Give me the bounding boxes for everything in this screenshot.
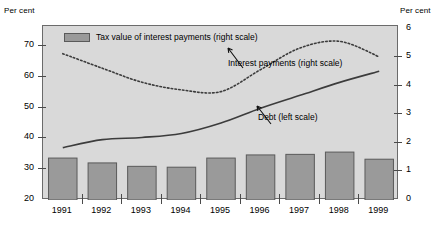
y2-tick-mark-3 xyxy=(394,113,402,114)
y2-tick-label-1: 1 xyxy=(406,164,432,174)
x-tick-label-1991: 1991 xyxy=(42,205,82,215)
bar-1991 xyxy=(49,158,77,200)
x-tick-label-1993: 1993 xyxy=(121,205,161,215)
right-axis-unit-label: Per cent xyxy=(400,6,431,15)
bar-1999 xyxy=(365,159,393,200)
x-tick-mark-0 xyxy=(82,194,83,204)
y-tick-label-50: 50 xyxy=(8,101,34,111)
y-tick-mark-40 xyxy=(38,137,46,138)
x-tick-label-1994: 1994 xyxy=(160,205,200,215)
x-tick-mark-6 xyxy=(319,194,320,204)
bar-1998 xyxy=(325,152,353,200)
bar-1997 xyxy=(286,154,314,200)
y-tick-label-70: 70 xyxy=(8,39,34,49)
interest-payments-annotation: Interest payments (right scale) xyxy=(228,58,342,68)
x-tick-mark-1 xyxy=(121,194,122,204)
chart-figure: Per cent Per cent 203040506070 0123456 1… xyxy=(0,0,439,230)
y-tick-label-40: 40 xyxy=(8,131,34,141)
bar-1992 xyxy=(88,163,116,200)
y2-tick-mark-4 xyxy=(394,85,402,86)
y2-tick-mark-5 xyxy=(394,56,402,57)
x-tick-label-1995: 1995 xyxy=(200,205,240,215)
x-tick-label-1999: 1999 xyxy=(358,205,398,215)
y2-tick-label-4: 4 xyxy=(406,79,432,89)
bar-1994 xyxy=(167,167,195,200)
left-axis-unit-label: Per cent xyxy=(4,6,35,15)
line-debt xyxy=(63,71,379,147)
x-tick-label-1992: 1992 xyxy=(81,205,121,215)
y2-tick-label-6: 6 xyxy=(406,22,432,32)
y-tick-mark-70 xyxy=(38,45,46,46)
legend-swatch-bar xyxy=(64,33,90,42)
y2-tick-label-5: 5 xyxy=(406,50,432,60)
debt-annotation: Debt (left scale) xyxy=(258,112,318,122)
y-tick-label-20: 20 xyxy=(8,193,34,203)
x-tick-label-1998: 1998 xyxy=(319,205,359,215)
plot-svg xyxy=(43,26,399,200)
bar-1995 xyxy=(207,158,235,200)
x-tick-mark-4 xyxy=(240,194,241,204)
y2-tick-mark-1 xyxy=(394,170,402,171)
x-tick-mark-3 xyxy=(200,194,201,204)
x-tick-mark-5 xyxy=(279,194,280,204)
x-tick-label-1996: 1996 xyxy=(240,205,280,215)
y2-tick-label-0: 0 xyxy=(406,193,432,203)
y2-tick-label-3: 3 xyxy=(406,107,432,117)
y2-tick-label-2: 2 xyxy=(406,136,432,146)
y-tick-label-60: 60 xyxy=(8,70,34,80)
bar-1996 xyxy=(246,155,274,200)
y-tick-label-30: 30 xyxy=(8,162,34,172)
y-tick-mark-30 xyxy=(38,168,46,169)
bars-group xyxy=(49,152,394,200)
legend-label-tax-value: Tax value of interest payments (right sc… xyxy=(96,32,258,42)
y-tick-mark-60 xyxy=(38,76,46,77)
bar-1993 xyxy=(128,166,156,200)
x-tick-mark-2 xyxy=(161,194,162,204)
y-tick-mark-50 xyxy=(38,107,46,108)
y2-tick-mark-2 xyxy=(394,142,402,143)
plot-area xyxy=(42,25,398,199)
x-tick-label-1997: 1997 xyxy=(279,205,319,215)
x-tick-mark-7 xyxy=(358,194,359,204)
